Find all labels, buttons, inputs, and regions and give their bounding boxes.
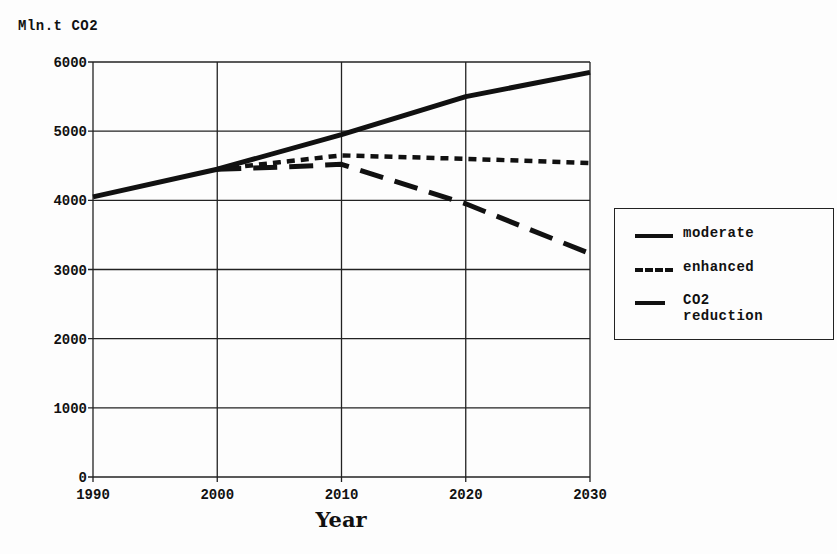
legend-item-moderate: moderate <box>635 225 754 241</box>
x-tick-label: 2020 <box>449 487 483 503</box>
legend-label: CO2 reduction <box>683 292 763 324</box>
x-axis-title: Year <box>314 507 367 532</box>
legend-label: moderate <box>683 225 754 241</box>
series-line-co2-reduction <box>217 164 590 253</box>
legend-item-enhanced: enhanced <box>635 259 754 275</box>
y-tick-label: 1000 <box>53 401 87 417</box>
y-tick-label: 6000 <box>53 55 87 71</box>
solid-line-swatch-icon <box>635 234 673 238</box>
x-tick-label: 2010 <box>325 487 359 503</box>
y-tick-label: 3000 <box>53 263 87 279</box>
x-tick-label: 1990 <box>76 487 110 503</box>
y-tick-label: 4000 <box>53 193 87 209</box>
legend-item-co2-reduction: CO2 reduction <box>635 292 763 324</box>
legend: moderate enhanced CO2 reduction <box>614 208 834 340</box>
dashed-line-swatch-icon <box>635 301 665 305</box>
x-axis-ticks: 19902000201020202030 <box>76 487 607 503</box>
y-tick-label: 2000 <box>53 332 87 348</box>
grid <box>88 62 590 482</box>
x-tick-label: 2000 <box>200 487 234 503</box>
dotted-line-swatch-icon <box>635 268 673 272</box>
y-tick-label: 5000 <box>53 124 87 140</box>
y-axis-ticks: 0100020003000400050006000 <box>53 55 87 486</box>
x-tick-label: 2030 <box>573 487 607 503</box>
y-tick-label: 0 <box>79 470 87 486</box>
legend-label: enhanced <box>683 259 754 275</box>
